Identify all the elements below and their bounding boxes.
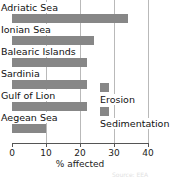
- x-tick-label: 20: [74, 148, 85, 158]
- x-tick-mark: [114, 143, 115, 147]
- x-tick-label: 30: [108, 148, 119, 158]
- bar: [12, 102, 87, 111]
- x-tick-mark: [80, 143, 81, 147]
- legend-label-erosion: Erosion: [100, 94, 135, 105]
- bar-category-label: Balearic Islands: [1, 46, 77, 57]
- bar-chart: Adriatic SeaIonian SeaBalearic IslandsSa…: [0, 0, 170, 180]
- bar-category-label: Adriatic Sea: [1, 2, 59, 13]
- source-note: Source: EEA: [112, 171, 148, 178]
- bar-category-label: Sardinia: [1, 68, 41, 79]
- bar: [12, 36, 94, 45]
- x-tick-label: 10: [40, 148, 51, 158]
- legend-label-sedimentation: Sedimentation: [100, 118, 169, 129]
- bar-category-label: Gulf of Lion: [1, 90, 56, 101]
- bar-category-label: Aegean Sea: [1, 112, 59, 123]
- x-tick-mark: [46, 143, 47, 147]
- legend-swatch-erosion: [100, 83, 109, 92]
- bar-category-label: Ionian Sea: [1, 24, 52, 35]
- x-axis-title: % affected: [12, 159, 148, 169]
- bar: [12, 80, 87, 89]
- x-tick-label: 40: [142, 148, 153, 158]
- bar: [12, 124, 46, 133]
- legend-swatch-sedimentation: [100, 107, 109, 116]
- bar: [12, 14, 128, 23]
- x-tick-mark: [148, 143, 149, 147]
- bar: [12, 58, 87, 67]
- x-tick-mark: [12, 143, 13, 147]
- x-tick-label: 0: [9, 148, 15, 158]
